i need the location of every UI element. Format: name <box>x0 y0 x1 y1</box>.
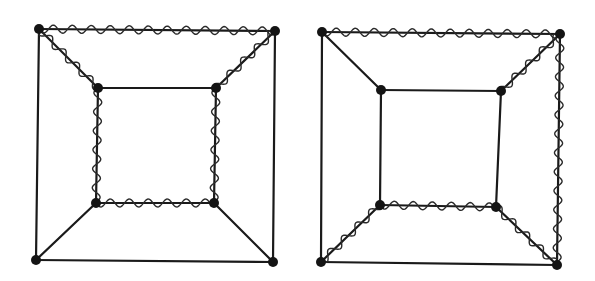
node-ibl <box>375 200 385 210</box>
node-ibr <box>209 198 219 208</box>
left-cube-graph <box>31 24 280 267</box>
node-otl <box>317 27 327 37</box>
node-otl <box>34 24 44 34</box>
edge-obr-ibr <box>496 207 557 265</box>
edge-otr-itr <box>216 31 275 88</box>
node-ibl <box>91 198 101 208</box>
edge-itl-itr <box>381 90 501 91</box>
node-itl <box>376 85 386 95</box>
node-obl <box>31 255 41 265</box>
edge-obl-otl <box>321 32 322 262</box>
right-cube-graph <box>316 27 565 270</box>
edge-obl-ibl <box>321 205 380 262</box>
edge-obr-obl <box>321 262 557 265</box>
node-obr <box>552 260 562 270</box>
node-otr <box>270 26 280 36</box>
node-obl <box>316 257 326 267</box>
node-ibr <box>491 202 501 212</box>
edge-itr-ibr <box>496 91 501 207</box>
node-itr <box>211 83 221 93</box>
node-itr <box>496 86 506 96</box>
diagram-canvas <box>0 0 595 281</box>
edge-obr-obl <box>36 260 273 262</box>
edge-obl-otl <box>36 29 39 260</box>
edge-obr-ibr <box>214 203 273 262</box>
node-otr <box>555 29 565 39</box>
edge-obl-ibl <box>36 203 96 260</box>
edge-otl-itl <box>322 32 381 90</box>
edge-otl-itl <box>39 29 98 88</box>
edge-otl-otr <box>322 32 560 34</box>
node-itl <box>93 83 103 93</box>
node-obr <box>268 257 278 267</box>
edge-otr-itr <box>501 34 560 91</box>
edge-ibl-itl <box>380 90 381 205</box>
edge-otr-obr <box>273 31 275 262</box>
